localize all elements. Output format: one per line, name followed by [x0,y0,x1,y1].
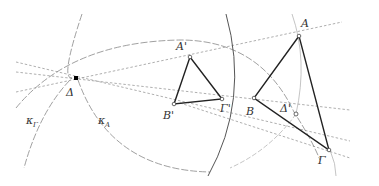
arc-right-thin [292,14,301,114]
point-gamma-marker [327,148,331,152]
line-delta-to-A [16,22,342,92]
arc-lower-right [230,114,296,168]
label-gamma-prime: Γ' [219,102,231,115]
label-delta-prime: Δ' [279,102,291,115]
label-kappa-gamma-sub: Γ [32,121,39,129]
point-delta-marker [74,76,78,80]
label-b: B [245,105,254,118]
small-triangle [174,57,222,104]
label-kappa-a-sub: A [104,121,110,129]
label-a-prime: A' [175,40,187,53]
point-delta-prime-marker [294,112,298,116]
label-b-prime: B' [162,109,174,122]
point-a-marker [297,34,301,38]
arc-top-long [16,40,320,160]
point-b-marker [252,96,256,100]
point-b-prime-marker [172,102,176,106]
point-gamma-prime-marker [220,97,224,101]
arc-right-thin-lower [330,150,336,176]
geometry-diagram: Δ A' B' Γ' A B Γ Δ' κ Γ κ A [0,0,379,186]
large-triangle [254,36,329,150]
arcs [16,14,336,176]
label-a: A [300,17,309,30]
point-a-prime-marker [188,55,192,59]
label-gamma: Γ [317,154,326,167]
arc-solid-center [208,14,235,176]
label-delta: Δ [65,86,74,99]
